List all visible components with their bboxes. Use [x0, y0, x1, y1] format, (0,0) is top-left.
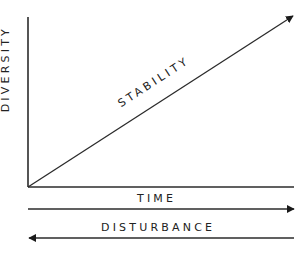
disturbance-label: DISTURBANCE — [101, 222, 215, 233]
x-axis-label: TIME — [137, 193, 176, 204]
y-axis-label: DIVERSITY — [0, 26, 11, 112]
diagram-canvas — [0, 0, 307, 254]
stability-arrow — [28, 16, 293, 187]
diversity-stability-diagram: DIVERSITY STABILITY TIME DISTURBANCE — [0, 0, 307, 254]
